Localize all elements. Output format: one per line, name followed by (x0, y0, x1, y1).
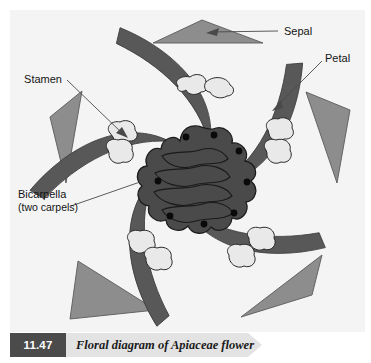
figure-caption: 11.47 Floral diagram of Apiaceae flower (10, 333, 262, 357)
stamen-shape-right (264, 118, 293, 164)
sepal-shape-right (306, 92, 350, 183)
caption-number-badge: 11.47 (10, 333, 66, 357)
caption-title: Floral diagram of Apiaceae flower (76, 333, 254, 357)
label-sepal: Sepal (284, 25, 312, 37)
label-petal: Petal (325, 52, 350, 64)
label-stamen: Stamen (24, 73, 62, 85)
label-bicarpella-line2: (two carpels) (18, 201, 78, 213)
diagram-panel: Sepal Petal Stamen Bicarpella (two carpe… (10, 10, 365, 332)
floral-diagram-svg: Sepal Petal Stamen Bicarpella (two carpe… (10, 10, 365, 332)
label-bicarpella-line1: Bicarpella (18, 188, 67, 200)
floral-diagram-figure: Sepal Petal Stamen Bicarpella (two carpe… (0, 0, 371, 363)
bicarpella-ovary (137, 126, 255, 233)
